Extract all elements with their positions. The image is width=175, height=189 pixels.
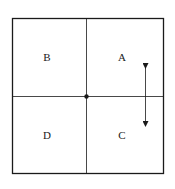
quadrant-diagram: B A D C <box>0 0 175 189</box>
quadrant-label-d: D <box>43 129 51 141</box>
quadrant-label-a: A <box>118 51 126 63</box>
quadrant-label-c: C <box>118 129 125 141</box>
center-point-dot <box>84 94 88 98</box>
quadrant-label-b: B <box>43 51 50 63</box>
